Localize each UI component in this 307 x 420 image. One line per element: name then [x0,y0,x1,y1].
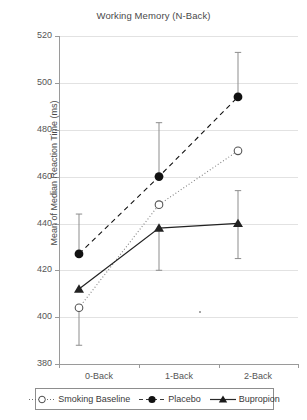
legend-item-smoking-baseline[interactable]: Smoking Baseline [29,394,130,405]
open-circle-dotted-icon [29,394,55,405]
legend-label: Placebo [168,394,201,404]
data-point-bupropion-2-back[interactable] [233,219,243,227]
data-point-smoking-baseline-0-back[interactable] [75,304,83,312]
legend-label: Smoking Baseline [58,394,130,404]
stray-marker [199,311,201,313]
data-point-smoking-baseline-1-back[interactable] [155,201,163,209]
legend-item-placebo[interactable]: Placebo [139,394,201,405]
filled-triangle-solid-icon [210,394,236,405]
chart-figure: Working Memory (N-Back) 520 500 480 460 … [0,0,307,420]
chart-legend: Smoking Baseline Placebo Bupropion [35,388,274,410]
legend-label: Bupropion [239,394,280,404]
data-point-bupropion-0-back[interactable] [74,284,84,292]
legend-item-bupropion[interactable]: Bupropion [210,394,280,405]
data-point-smoking-baseline-2-back[interactable] [234,147,242,155]
data-point-placebo-0-back[interactable] [75,249,84,258]
series-layer [0,0,307,420]
data-point-placebo-1-back[interactable] [155,172,164,181]
data-point-placebo-2-back[interactable] [234,93,243,102]
filled-circle-dashed-icon [139,394,165,405]
